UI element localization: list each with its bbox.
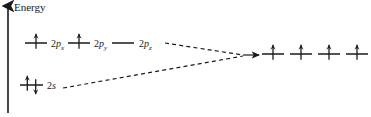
orbital-label-2pz: 2pz <box>139 38 152 54</box>
hybrid-orbital-1 <box>262 45 284 60</box>
energy-axis-label: Energy <box>14 1 46 14</box>
orbital-energy-diagram: Energy 2px2py2pz2s <box>0 0 371 117</box>
hybrid-orbital-3 <box>318 45 340 60</box>
atomic-orbital-levels <box>20 34 134 95</box>
hybridization-connectors <box>63 43 259 88</box>
diagram-canvas <box>0 0 371 117</box>
orbital-label-2py: 2py <box>94 38 107 54</box>
orbital-label-2s: 2s <box>47 80 56 91</box>
hybrid-orbital-levels <box>262 45 368 60</box>
connector-p-to-hybrid <box>165 43 243 55</box>
orbital-label-2px: 2px <box>51 38 64 54</box>
hybrid-orbital-2 <box>290 45 312 60</box>
atomic-orbital-2p <box>68 34 90 49</box>
atomic-orbital-2p <box>25 34 47 49</box>
atomic-orbital-2s <box>20 76 43 95</box>
hybrid-orbital-4 <box>346 45 368 60</box>
connector-s-to-hybrid <box>63 56 243 88</box>
